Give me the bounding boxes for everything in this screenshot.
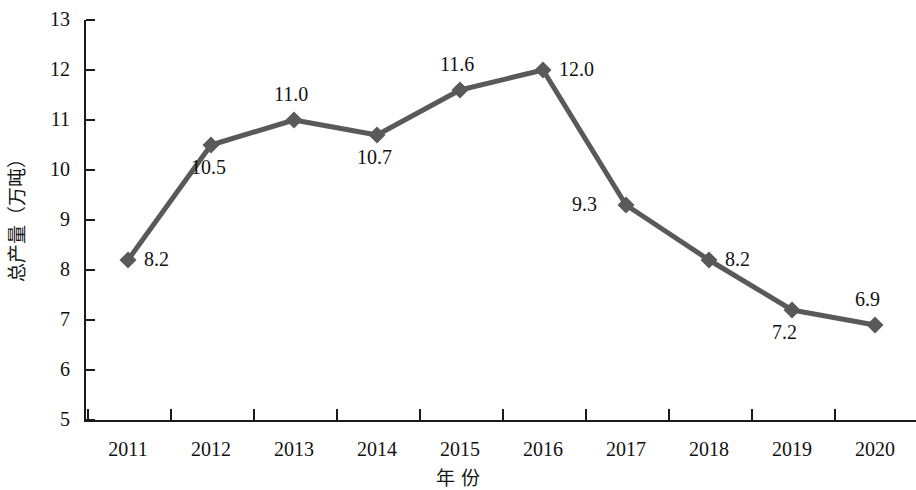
y-tick-label: 11	[51, 108, 70, 130]
data-point-label: 9.3	[572, 194, 597, 214]
plot-area: 5678910111213 8.210.511.010.711.612.09.3…	[84, 20, 916, 422]
x-axis-label-2011: 2011	[108, 438, 147, 461]
x-axis-label-2013: 2013	[274, 438, 314, 461]
x-axis-label-2015: 2015	[440, 438, 480, 461]
data-point-marker	[867, 317, 884, 334]
y-axis-title-text: 总产量（万吨）	[2, 149, 29, 282]
line-chart: 总产量（万吨） 5678910111213 8.210.511.010.711.…	[0, 0, 916, 490]
y-tick-label: 8	[60, 258, 70, 280]
y-tick-label: 13	[50, 8, 70, 30]
data-point-label: 11.0	[274, 84, 308, 104]
series-line	[84, 20, 916, 422]
data-point-marker	[286, 112, 303, 129]
y-tick-label: 6	[60, 358, 70, 380]
data-point-label: 8.2	[725, 249, 750, 269]
y-tick-label: 7	[60, 308, 70, 330]
y-tick-label: 10	[50, 158, 70, 180]
y-tick-label: 9	[60, 208, 70, 230]
data-point-label: 11.6	[440, 54, 474, 74]
x-axis-label-2014: 2014	[357, 438, 397, 461]
data-point-label: 7.2	[772, 322, 797, 342]
data-point-label: 12.0	[559, 59, 594, 79]
y-tick-label: 12	[50, 58, 70, 80]
x-axis-label-2019: 2019	[772, 438, 812, 461]
data-point-label: 10.5	[191, 157, 226, 177]
x-axis-label-2012: 2012	[191, 438, 231, 461]
y-tick-label: 5	[60, 408, 70, 430]
y-axis-title: 总产量（万吨）	[0, 0, 30, 430]
series-polyline	[128, 70, 875, 325]
data-point-label: 6.9	[855, 289, 880, 309]
data-point-label: 8.2	[144, 249, 169, 269]
x-axis-label-2017: 2017	[606, 438, 646, 461]
x-axis-label-2016: 2016	[523, 438, 563, 461]
x-axis-title: 年 份	[0, 463, 916, 490]
data-point-label: 10.7	[357, 147, 392, 167]
x-axis-label-2018: 2018	[689, 438, 729, 461]
x-axis-label-2020: 2020	[855, 438, 895, 461]
